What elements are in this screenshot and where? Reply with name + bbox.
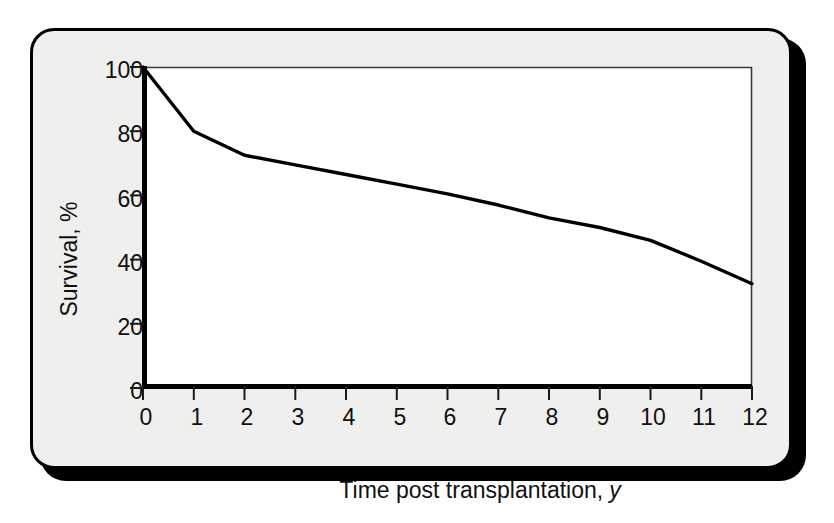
figure-root: Survival, % 0 20 40 60 80 100 0 1 2 3 4 …: [0, 0, 834, 523]
plot-background: [143, 67, 752, 388]
y-tick-marks: [130, 67, 144, 388]
plot-svg: [0, 0, 834, 523]
